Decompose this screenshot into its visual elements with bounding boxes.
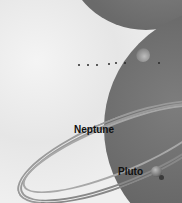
small-moon: [108, 63, 110, 65]
small-moon: [158, 62, 160, 64]
neptune-label: Neptune: [74, 124, 114, 135]
moon: [136, 48, 150, 62]
small-moon: [96, 64, 98, 66]
small-moon: [87, 64, 89, 66]
small-moon: [115, 62, 117, 64]
small-moon: [124, 62, 126, 64]
planets-illustration: Neptune Pluto: [0, 0, 182, 203]
charon-moon: [159, 175, 164, 180]
small-moon: [78, 64, 80, 66]
pluto-label: Pluto: [118, 166, 143, 177]
